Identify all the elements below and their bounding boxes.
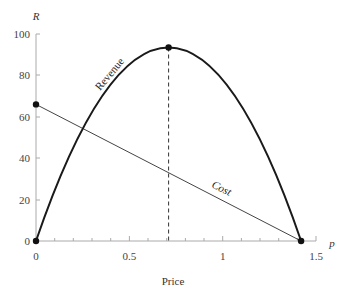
revenue-cost-chart: 100 80 60 40 20 0 0 0.5 1 1.5 R p Price … [0,0,348,299]
x-tick-label-0.5: 0.5 [123,250,137,262]
y-ticks [36,34,40,200]
breakeven-root-marker [298,238,304,244]
cost-intercept-marker [33,101,39,107]
cost-line-label: Cost [210,178,234,198]
x-tick-label-1.5: 1.5 [309,250,323,262]
y-tick-label-40: 40 [19,152,31,164]
y-tick-label-60: 60 [19,111,31,123]
y-tick-label-80: 80 [19,69,31,81]
revenue-max-marker [165,44,171,50]
x-tick-label-0: 0 [33,250,39,262]
x-axis-symbol: p [328,237,335,249]
y-tick-label-0: 0 [25,235,31,247]
x-tick-label-1: 1 [220,250,226,262]
y-tick-label-20: 20 [19,194,31,206]
origin-marker [33,238,39,244]
x-ticks [55,236,316,241]
x-axis-title: Price [162,275,185,287]
y-axis-symbol: R [32,10,40,22]
y-tick-label-100: 100 [14,28,31,40]
